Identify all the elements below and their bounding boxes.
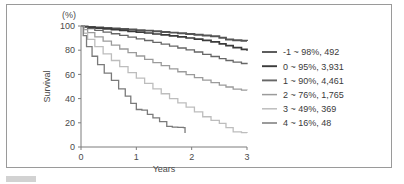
legend-label-0: -1 ~ 98%, 492	[283, 47, 339, 57]
y-tick-label: 0	[70, 142, 75, 152]
legend-label-5: 4 ~ 16%, 48	[283, 118, 331, 128]
y-tick-label: 100	[60, 21, 75, 31]
legend-label-2: 1 ~ 90%, 4,461	[283, 76, 344, 86]
survival-curve-5	[81, 26, 185, 133]
legend-label-4: 3 ~ 49%, 369	[283, 104, 336, 114]
y-tick-label: 20	[65, 118, 75, 128]
survival-curve-4	[81, 26, 247, 133]
y-axis-unit-label: (%)	[62, 10, 76, 20]
x-tick-label: 1	[134, 152, 139, 162]
x-tick-label: 3	[244, 152, 249, 162]
y-axis-title: Survival	[42, 70, 52, 102]
legend-label-1: 0 ~ 95%, 3,931	[283, 62, 344, 72]
y-tick-label: 80	[65, 45, 75, 55]
legend-label-3: 2 ~ 76%, 1,765	[283, 90, 344, 100]
y-tick-label: 60	[65, 70, 75, 80]
figure-container: (%)0204060801000123YearsSurvival-1 ~ 98%…	[0, 0, 404, 184]
x-tick-label: 2	[189, 152, 194, 162]
y-tick-label: 40	[65, 94, 75, 104]
survival-chart: (%)0204060801000123YearsSurvival-1 ~ 98%…	[0, 0, 404, 184]
x-tick-label: 0	[78, 152, 83, 162]
caption-marker-bar	[6, 176, 36, 182]
x-axis-title: Years	[153, 164, 176, 174]
